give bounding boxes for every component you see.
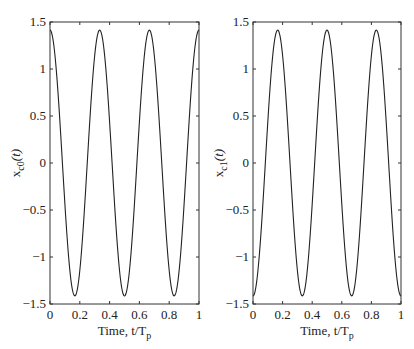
y-axis-title: xc1(t) (211, 149, 229, 177)
y-tick-label: −0.5 (225, 202, 249, 217)
x-tick-label: 1 (398, 307, 405, 322)
x-tick-label: 0.8 (161, 307, 177, 322)
y-tick-label: 0.5 (30, 108, 46, 123)
y-tick-label: 1 (243, 61, 250, 76)
y-tick-label: 1 (40, 61, 47, 76)
y-tick-label: −0.5 (22, 202, 46, 217)
signal-curve (253, 30, 401, 296)
x-tick-label: 0 (250, 307, 257, 322)
y-tick-label: −1 (235, 249, 249, 264)
y-tick-label: 0 (243, 155, 250, 170)
x-tick-label: 0 (47, 307, 54, 322)
figure: 00.20.40.60.811.510.50−0.5−1−1.5Time, t/… (0, 0, 414, 349)
y-tick-label: −1.5 (225, 296, 249, 311)
y-tick-label: −1.5 (22, 296, 46, 311)
x-tick-label: 0.4 (101, 307, 118, 322)
y-tick-label: −1 (32, 249, 46, 264)
x-axis-title: Time, t/Tp (300, 323, 354, 341)
x-tick-label: 0.6 (334, 307, 351, 322)
signal-curve (50, 30, 199, 296)
axes-frame (253, 22, 401, 304)
x-tick-label: 0.2 (274, 307, 290, 322)
y-tick-label: 1.5 (30, 14, 46, 29)
x-axis-title: Time, t/Tp (98, 323, 152, 341)
x-tick-label: 1 (196, 307, 203, 322)
axes-frame (50, 22, 199, 304)
right-subplot: 00.20.40.60.811.510.50−0.5−1−1.5Time, t/… (211, 14, 404, 341)
y-tick-label: 0.5 (233, 108, 249, 123)
x-tick-label: 0.6 (131, 307, 148, 322)
y-axis-title: xc0(t) (8, 149, 26, 177)
x-tick-label: 0.8 (363, 307, 379, 322)
y-tick-label: 1.5 (233, 14, 249, 29)
y-tick-label: 0 (40, 155, 47, 170)
x-tick-label: 0.2 (72, 307, 88, 322)
left-subplot: 00.20.40.60.811.510.50−0.5−1−1.5Time, t/… (8, 14, 202, 341)
x-tick-label: 0.4 (304, 307, 321, 322)
